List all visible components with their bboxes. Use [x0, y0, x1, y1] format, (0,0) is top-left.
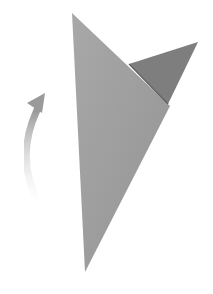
arrow-arc: [26, 110, 40, 205]
diagram-svg: [0, 0, 213, 294]
origami-diagram: [0, 0, 213, 294]
rotation-arrow: [26, 93, 45, 205]
main-paper-triangle: [72, 13, 170, 272]
paper-model: [72, 13, 198, 272]
